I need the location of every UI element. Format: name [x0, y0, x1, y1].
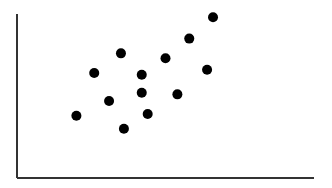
data-point	[137, 70, 147, 80]
data-point	[208, 12, 218, 22]
data-point	[71, 111, 81, 121]
scatter-chart	[0, 0, 332, 188]
data-point	[137, 88, 147, 98]
data-point	[104, 96, 114, 106]
data-point	[172, 89, 182, 99]
data-point	[143, 109, 153, 119]
data-points	[71, 12, 218, 134]
data-point	[184, 34, 194, 44]
data-point	[202, 65, 212, 75]
data-point	[119, 124, 129, 134]
data-point	[89, 68, 99, 78]
data-point	[116, 48, 126, 58]
data-point	[161, 53, 171, 63]
